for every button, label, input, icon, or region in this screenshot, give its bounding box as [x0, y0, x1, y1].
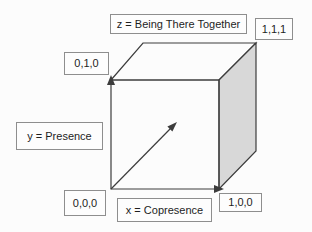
- vertex-label-000: 0,0,0: [64, 190, 106, 216]
- y-axis-label: y = Presence: [16, 122, 103, 150]
- x-axis-label: x = Copresence: [117, 198, 212, 222]
- vertex-label-100: 1,0,0: [219, 193, 262, 212]
- z-axis-label: z = Being There Together: [110, 14, 247, 34]
- cube-diagram: z = Being There Together 1,1,1 0,1,0 y =…: [0, 0, 312, 232]
- z-axis-arrow-line: [111, 128, 171, 189]
- cube-right-face-shaded: [219, 43, 256, 189]
- vertex-label-111: 1,1,1: [255, 18, 293, 40]
- vertex-label-010: 0,1,0: [64, 52, 109, 75]
